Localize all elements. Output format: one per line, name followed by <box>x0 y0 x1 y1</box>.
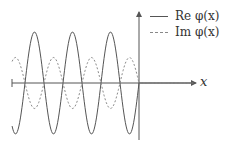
legend-item-im: Im φ(x) <box>150 24 234 40</box>
solid-line-swatch-icon <box>150 16 168 17</box>
dashed-line-swatch-icon <box>150 32 168 33</box>
legend-label-re: Re φ(x) <box>175 9 219 23</box>
legend-label-im: Im φ(x) <box>175 25 219 39</box>
legend-item-re: Re φ(x) <box>150 8 234 24</box>
legend: Re φ(x) Im φ(x) <box>150 8 234 40</box>
x-axis-label: x <box>200 74 207 89</box>
